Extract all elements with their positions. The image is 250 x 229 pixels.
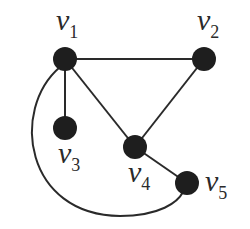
edge-v2-v4 [135, 59, 204, 147]
graph-diagram: v1v2v3v4v5 [0, 0, 250, 229]
node-v1 [53, 47, 77, 71]
node-v5 [175, 171, 199, 195]
graph-canvas: v1v2v3v4v5 [0, 0, 250, 229]
edge-v1-v5 [32, 67, 183, 216]
label-v5: v5 [205, 164, 227, 203]
label-v2: v2 [197, 3, 219, 42]
node-v2 [192, 47, 216, 71]
label-v1: v1 [56, 3, 78, 42]
label-v4: v4 [128, 155, 150, 194]
label-v3: v3 [58, 136, 80, 175]
labels: v1v2v3v4v5 [56, 3, 227, 203]
